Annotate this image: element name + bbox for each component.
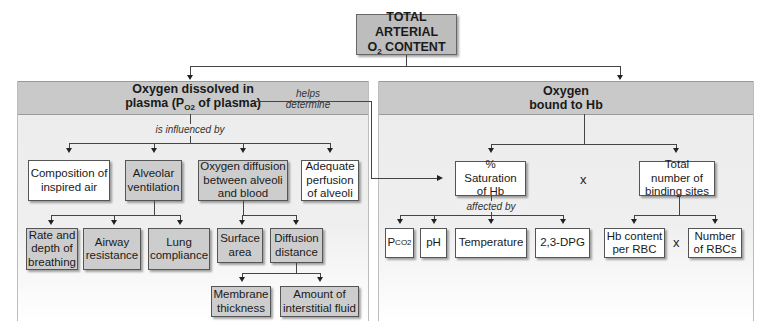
ph-box: pH bbox=[420, 228, 447, 258]
title-line1: TOTAL ARTERIAL bbox=[357, 10, 456, 40]
arrow-icon bbox=[673, 148, 679, 153]
arrow-icon bbox=[66, 148, 72, 153]
dpg-box: 2,3-DPG bbox=[535, 228, 590, 258]
connector bbox=[51, 215, 181, 216]
connector bbox=[400, 215, 564, 216]
arrow-icon bbox=[488, 148, 494, 153]
arrow-icon bbox=[397, 219, 403, 224]
arrow-icon bbox=[431, 219, 437, 224]
arrow-icon bbox=[317, 277, 323, 282]
affected-by-label: affected by bbox=[455, 201, 527, 212]
factor-composition-inspired-air: Composition of inspired air bbox=[28, 160, 110, 201]
diffusion-distance-box: Diffusion distance bbox=[270, 228, 323, 263]
arrow-icon bbox=[437, 175, 443, 181]
connector bbox=[242, 215, 297, 216]
arrow-icon bbox=[239, 277, 245, 282]
rate-depth-breathing-box: Rate and depth of breathing bbox=[26, 228, 78, 270]
connector bbox=[256, 101, 371, 102]
pco2-box: PCO2 bbox=[385, 228, 414, 258]
lung-compliance-box: Lung compliance bbox=[148, 228, 210, 270]
arrow-icon bbox=[631, 219, 637, 224]
left-panel-dissolved-oxygen: Oxygen dissolved in plasma (PO2 of plasm… bbox=[17, 81, 369, 321]
connector bbox=[406, 55, 407, 66]
arrow-icon bbox=[111, 220, 117, 225]
interstitial-fluid-box: Amount of interstitial fluid bbox=[280, 286, 359, 317]
connector bbox=[634, 215, 716, 216]
connector bbox=[371, 101, 372, 178]
saturation-of-hb-box: % Saturation of Hb bbox=[455, 161, 526, 196]
connector bbox=[679, 196, 680, 215]
connector bbox=[584, 114, 585, 144]
multiply-sign-2: x bbox=[673, 235, 680, 250]
connector bbox=[296, 263, 297, 273]
arrow-icon bbox=[617, 75, 623, 80]
connector bbox=[190, 66, 621, 67]
factor-oxygen-diffusion: Oxygen diffusion between alveoli and blo… bbox=[198, 160, 288, 201]
surface-area-box: Surface area bbox=[217, 228, 263, 263]
airway-resistance-box: Airway resistance bbox=[83, 228, 141, 270]
arrow-icon bbox=[293, 220, 299, 225]
arrow-icon bbox=[151, 148, 157, 153]
factor-alveolar-ventilation: Alveolar ventilation bbox=[125, 160, 182, 201]
helps-determine-label: helpsdetermine bbox=[283, 88, 333, 110]
total-arterial-o2-content-box: TOTAL ARTERIAL O2 CONTENT bbox=[356, 14, 457, 55]
connector bbox=[190, 114, 191, 124]
arrow-icon bbox=[187, 75, 193, 80]
arrow-icon bbox=[177, 220, 183, 225]
arrow-icon bbox=[48, 220, 54, 225]
hb-content-per-rbc-box: Hb content per RBC bbox=[604, 228, 665, 258]
multiply-sign: x bbox=[580, 172, 587, 187]
factor-adequate-perfusion: Adequate perfusion of alveoli bbox=[301, 160, 359, 201]
arrow-icon bbox=[327, 148, 333, 153]
right-panel-heading: Oxygen bound to Hb bbox=[379, 81, 753, 115]
connector bbox=[371, 178, 438, 179]
connector bbox=[190, 136, 191, 143]
connector bbox=[243, 201, 244, 215]
connector bbox=[242, 273, 321, 274]
is-influenced-by-label: is influenced by bbox=[140, 124, 240, 135]
arrow-icon bbox=[560, 219, 566, 224]
arrow-icon bbox=[239, 220, 245, 225]
connector bbox=[491, 144, 677, 145]
binding-sites-box: Total number of binding sites bbox=[639, 161, 715, 196]
connector bbox=[69, 143, 331, 144]
right-panel-bound-oxygen: Oxygen bound to Hb bbox=[378, 81, 754, 321]
membrane-thickness-box: Membrane thickness bbox=[211, 286, 271, 317]
arrow-icon bbox=[240, 148, 246, 153]
connector bbox=[154, 201, 155, 215]
number-of-rbcs-box: Number of RBCs bbox=[688, 228, 742, 258]
temperature-box: Temperature bbox=[455, 228, 527, 258]
arrow-icon bbox=[712, 219, 718, 224]
arrow-icon bbox=[488, 219, 494, 224]
